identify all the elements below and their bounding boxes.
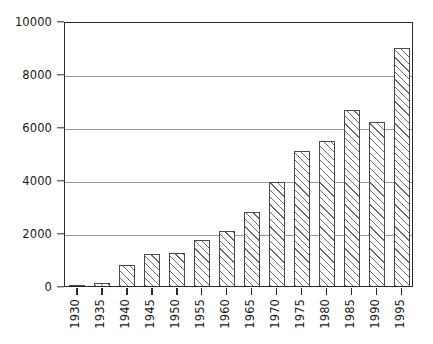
x-tick-mark — [401, 288, 402, 295]
x-tick-mark — [201, 288, 202, 295]
x-tick-label: 1945 — [145, 299, 157, 329]
x-tick-label: 1960 — [220, 299, 232, 329]
x-tick-label: 1950 — [170, 299, 182, 329]
x-tick-label: 1970 — [270, 299, 282, 329]
x-axis: 1930193519401945195019551960196519701975… — [0, 0, 433, 344]
x-tick-label: 1955 — [195, 299, 207, 329]
x-tick-mark — [276, 288, 277, 295]
x-tick-label: 1995 — [395, 299, 407, 329]
bar-chart: 0200040006000800010000 19301935194019451… — [0, 0, 433, 344]
x-tick-label: 1965 — [245, 299, 257, 329]
x-tick-mark — [301, 288, 302, 295]
x-tick-label: 1935 — [95, 299, 107, 329]
x-tick-mark — [251, 288, 252, 295]
x-tick-mark — [176, 288, 177, 295]
x-tick-label: 1975 — [295, 299, 307, 329]
x-tick-label: 1930 — [70, 299, 82, 329]
x-tick-mark — [101, 288, 102, 295]
x-tick-mark — [326, 288, 327, 295]
x-tick-label: 1980 — [320, 299, 332, 329]
x-tick-label: 1985 — [345, 299, 357, 329]
x-tick-mark — [351, 288, 352, 295]
x-tick-mark — [376, 288, 377, 295]
x-tick-mark — [76, 288, 77, 295]
x-tick-label: 1940 — [120, 299, 132, 329]
x-tick-label: 1990 — [370, 299, 382, 329]
x-tick-mark — [151, 288, 152, 295]
x-tick-mark — [226, 288, 227, 295]
x-tick-mark — [126, 288, 127, 295]
